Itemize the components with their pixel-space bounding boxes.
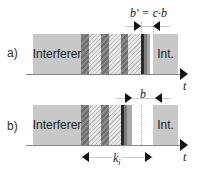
span-label-subscript: i [118, 158, 120, 167]
interferer-block-b: Interferer [33, 105, 81, 145]
dimension-line-a [125, 26, 170, 27]
packet-light-b2 [109, 105, 121, 145]
int-label-a: Int. [157, 47, 174, 61]
right-arrow-icon-b [125, 93, 133, 103]
dimension-label-a: b' = c·b [130, 6, 167, 21]
time-axis-a [26, 74, 182, 75]
packet-light-a2 [109, 34, 121, 74]
packet-dark-b2 [101, 105, 109, 145]
span-right-arrow-icon [145, 152, 153, 162]
panel-a-label: a) [7, 46, 18, 60]
span-left-arrow-icon [81, 152, 89, 162]
span-label-b: ki [112, 151, 122, 167]
packet-lite-a [147, 34, 150, 74]
left-arrow-icon-b [154, 93, 162, 103]
packet-dark-a1 [81, 34, 89, 74]
int-block-a: Int. [153, 34, 178, 74]
gap-guide-b [141, 105, 142, 145]
packet-light-a1 [89, 34, 101, 74]
int-label-b: Int. [157, 118, 174, 132]
interferer-block-a: Interferer [33, 34, 81, 74]
interferer-label-a: Interferer [33, 47, 82, 61]
dim-guide-right-a [153, 22, 154, 34]
packet-dark-a3 [121, 34, 128, 74]
axis-label-a: t [183, 79, 186, 94]
gap-label-b: b [140, 87, 146, 102]
packet-lite-b [127, 105, 132, 145]
dim-guide-left-a [141, 22, 142, 34]
packet-dark-b1 [81, 105, 89, 145]
interferer-label-b: Interferer [33, 118, 82, 132]
packet-light-b1 [89, 105, 101, 145]
panel-b-label: b) [7, 119, 18, 133]
axis-label-b: t [183, 150, 186, 165]
time-axis-b [26, 145, 182, 146]
packet-light-a3 [128, 34, 141, 74]
int-block-b: Int. [153, 105, 178, 145]
packet-dark-a2 [101, 34, 109, 74]
